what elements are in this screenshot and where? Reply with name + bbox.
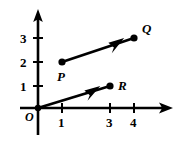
y-tick-label-3: 3 xyxy=(20,32,27,45)
point-Q-dot xyxy=(130,34,137,41)
origin-label: O xyxy=(25,111,34,123)
vector-OR-shaft xyxy=(38,86,110,108)
point-P-dot xyxy=(58,58,65,65)
x-tick-label-4: 4 xyxy=(130,116,137,129)
x-tick-label-3: 3 xyxy=(106,116,113,129)
point-label-R: R xyxy=(118,79,127,92)
origin-dot xyxy=(35,105,41,111)
y-tick-label-1: 1 xyxy=(20,80,27,93)
point-label-P: P xyxy=(57,70,65,83)
point-R-dot xyxy=(106,82,113,89)
vector-diagram-figure: 3 2 1 1 3 4 O P Q R xyxy=(0,0,180,143)
x-tick-label-1: 1 xyxy=(58,116,65,129)
point-label-Q: Q xyxy=(142,22,151,35)
vector-PQ-shaft xyxy=(62,38,134,62)
y-tick-label-2: 2 xyxy=(20,56,27,69)
